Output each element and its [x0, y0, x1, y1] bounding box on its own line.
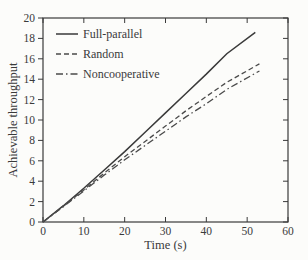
y-tick-label: 12: [24, 94, 36, 106]
y-tick-label: 4: [29, 175, 35, 187]
x-tick-label: 10: [78, 225, 90, 237]
legend-label: Noncooperative: [83, 67, 160, 81]
x-tick-label: 0: [40, 225, 46, 237]
y-tick-label: 14: [24, 73, 36, 85]
x-tick-label: 20: [119, 225, 131, 237]
y-tick-label: 2: [29, 196, 35, 208]
x-tick-label: 60: [282, 225, 294, 237]
y-tick-label: 18: [24, 32, 36, 44]
chart-canvas: 010203040506002468101214161820Full-paral…: [0, 0, 308, 260]
throughput-chart-figure: 010203040506002468101214161820Full-paral…: [0, 0, 308, 260]
series-noncooperative: [43, 71, 259, 222]
x-tick-label: 50: [241, 225, 253, 237]
y-axis-label: Achievable throughput: [6, 63, 21, 178]
x-axis-label: Time (s): [43, 238, 288, 253]
y-tick-label: 16: [24, 53, 36, 65]
x-tick-label: 40: [201, 225, 213, 237]
y-tick-label: 6: [29, 155, 35, 167]
legend-label: Random: [83, 47, 124, 61]
y-tick-label: 8: [29, 134, 35, 146]
legend-label: Full-parallel: [83, 27, 143, 41]
y-tick-label: 10: [24, 114, 36, 126]
x-tick-label: 30: [160, 225, 172, 237]
y-tick-label: 20: [24, 12, 36, 24]
series-random: [43, 64, 259, 222]
series-full-parallel: [43, 32, 255, 222]
y-tick-label: 0: [29, 216, 35, 228]
